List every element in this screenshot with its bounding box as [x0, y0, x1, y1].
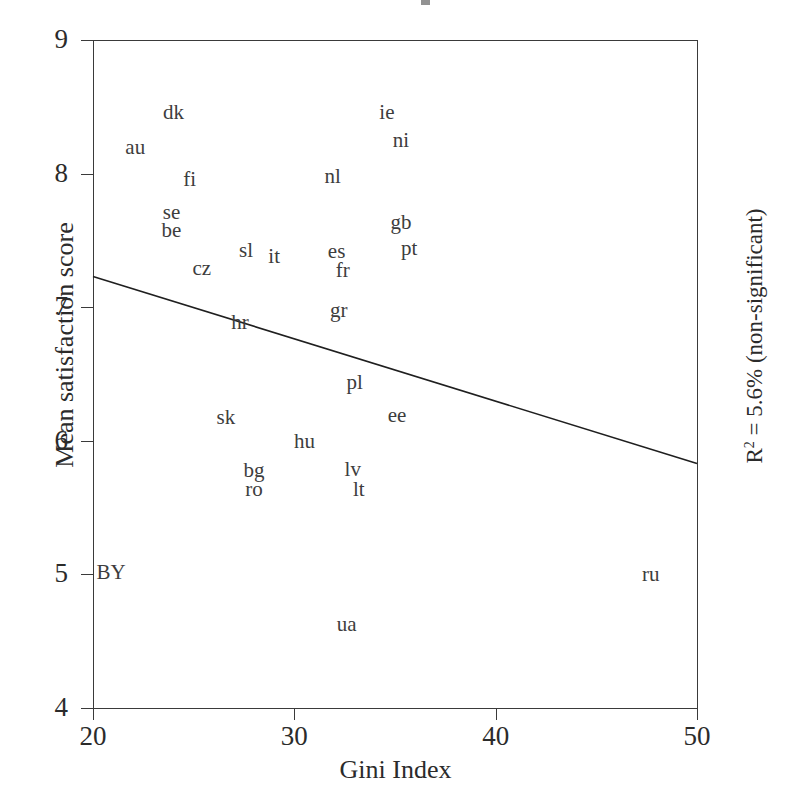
data-point-label-fr: fr — [336, 259, 350, 280]
data-point-label-au: au — [125, 136, 145, 157]
significance-note: (non-significant) — [742, 209, 767, 364]
x-tick-label: 30 — [264, 723, 324, 750]
data-point-label-sk: sk — [217, 406, 236, 427]
data-point-label-pt: pt — [401, 238, 417, 259]
y-tick-label: 9 — [28, 26, 68, 53]
cropped-title-artifact — [421, 0, 430, 5]
data-point-label-it: it — [268, 246, 280, 267]
y-axis-line — [93, 40, 94, 709]
x-tick-label: 50 — [667, 723, 727, 750]
data-point-label-ro: ro — [245, 478, 263, 499]
data-point-label-nl: nl — [324, 166, 340, 187]
data-point-label-hr: hr — [231, 311, 249, 332]
y-tick-mark — [81, 708, 93, 709]
data-point-label-ru: ru — [642, 564, 660, 585]
data-point-label-ua: ua — [337, 613, 357, 634]
y-tick-mark — [81, 574, 93, 575]
x-axis-title: Gini Index — [93, 755, 698, 785]
y-tick-label: 5 — [28, 560, 68, 587]
r-squared-value: = 5.6% — [742, 369, 767, 441]
x-tick-label: 20 — [63, 723, 123, 750]
r-squared-exponent: 2 — [742, 441, 757, 448]
trendline — [93, 276, 697, 463]
y-tick-label: 4 — [28, 694, 68, 721]
scatter-plot-figure: 456789 20304050 Mean satisfaction score … — [0, 0, 786, 793]
r-squared-annotation: R2 = 5.6% (non-significant) — [741, 234, 768, 464]
data-point-label-dk: dk — [163, 102, 184, 123]
data-point-label-sl: sl — [239, 239, 253, 260]
data-point-label-ee: ee — [388, 405, 407, 426]
data-point-label-ni: ni — [393, 130, 409, 151]
x-tick-mark — [697, 708, 698, 720]
y-axis-title: Mean satisfaction score — [50, 145, 80, 545]
x-tick-mark — [93, 708, 94, 720]
data-point-label-cz: cz — [192, 258, 211, 279]
data-point-label-lt: lt — [353, 478, 365, 499]
r-squared-symbol: R — [742, 448, 767, 463]
y-tick-mark — [81, 441, 93, 442]
x-tick-mark — [496, 708, 497, 720]
y-tick-mark — [81, 40, 93, 41]
plot-border-right — [697, 40, 698, 709]
data-point-label-hu: hu — [294, 430, 315, 451]
data-point-label-by: BY — [97, 561, 126, 582]
plot-border-top — [93, 40, 698, 41]
data-point-label-fi: fi — [183, 168, 196, 189]
data-point-label-gb: gb — [391, 211, 412, 232]
data-point-label-gr: gr — [330, 299, 348, 320]
data-point-label-ie: ie — [379, 102, 394, 123]
x-axis-line — [93, 708, 698, 709]
x-tick-mark — [294, 708, 295, 720]
y-tick-mark — [81, 307, 93, 308]
data-point-label-pl: pl — [347, 372, 363, 393]
data-point-label-be: be — [162, 219, 182, 240]
y-tick-mark — [81, 174, 93, 175]
x-tick-label: 40 — [466, 723, 526, 750]
